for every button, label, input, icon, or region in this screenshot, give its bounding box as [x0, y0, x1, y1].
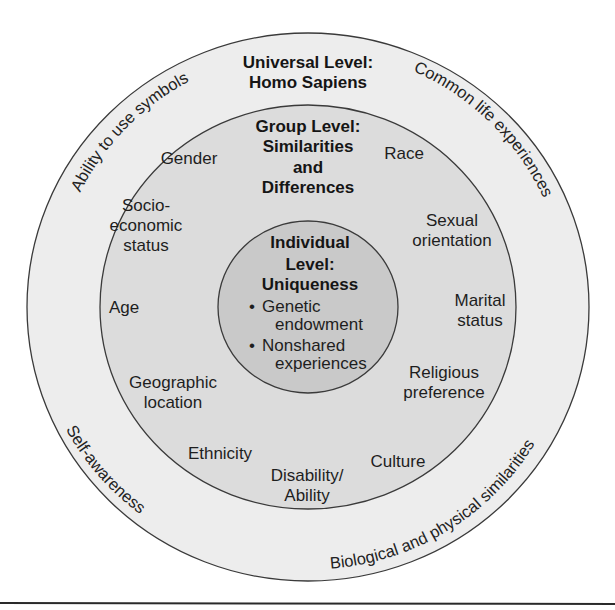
- group-item-ethnicity: Ethnicity: [188, 444, 253, 463]
- bullet-icon: •: [249, 297, 255, 316]
- group-level-title-line3: and: [293, 158, 323, 177]
- group-item-marital-status-line1: Marital: [454, 291, 505, 310]
- group-item-gender: Gender: [161, 149, 218, 168]
- group-item-geographic-line2: location: [144, 393, 203, 412]
- universal-level-subtitle: Homo Sapiens: [249, 73, 367, 92]
- group-item-socioeconomic-line1: Socio-: [122, 196, 170, 215]
- individual-item-genetic-line2: endowment: [275, 315, 363, 334]
- group-item-age: Age: [109, 298, 139, 317]
- individual-item-nonshared-line1: Nonshared: [262, 336, 345, 355]
- group-item-sexual-orientation-line2: orientation: [412, 231, 491, 250]
- individual-item-genetic-line1: Genetic: [262, 297, 321, 316]
- group-item-race: Race: [384, 144, 424, 163]
- group-item-religious-line1: Religious: [409, 363, 479, 382]
- bottom-rule: [0, 603, 615, 604]
- group-level-title-line4: Differences: [262, 178, 355, 197]
- group-item-marital-status-line2: status: [457, 311, 502, 330]
- bullet-icon: •: [249, 336, 255, 355]
- group-item-culture: Culture: [371, 452, 426, 471]
- group-level-title-line2: Similarities: [263, 137, 354, 156]
- group-item-disability-line1: Disability/: [271, 466, 344, 485]
- group-item-disability-line2: Ability: [284, 486, 330, 505]
- group-level-title: Group Level:: [256, 117, 361, 136]
- group-item-sexual-orientation-line1: Sexual: [426, 211, 478, 230]
- group-item-religious-line2: preference: [403, 383, 484, 402]
- individual-item-nonshared-line2: experiences: [275, 354, 367, 373]
- individual-level-title: Individual: [270, 233, 349, 252]
- group-item-socioeconomic-line3: status: [123, 236, 168, 255]
- individual-level-title-line2: Level:: [285, 255, 334, 274]
- diagram-canvas: Universal Level: Homo Sapiens Ability to…: [0, 0, 615, 610]
- group-item-socioeconomic-line2: economic: [110, 216, 183, 235]
- group-item-geographic-line1: Geographic: [129, 373, 217, 392]
- universal-level-title: Universal Level:: [243, 53, 373, 72]
- individual-level-title-line3: Uniqueness: [262, 275, 358, 294]
